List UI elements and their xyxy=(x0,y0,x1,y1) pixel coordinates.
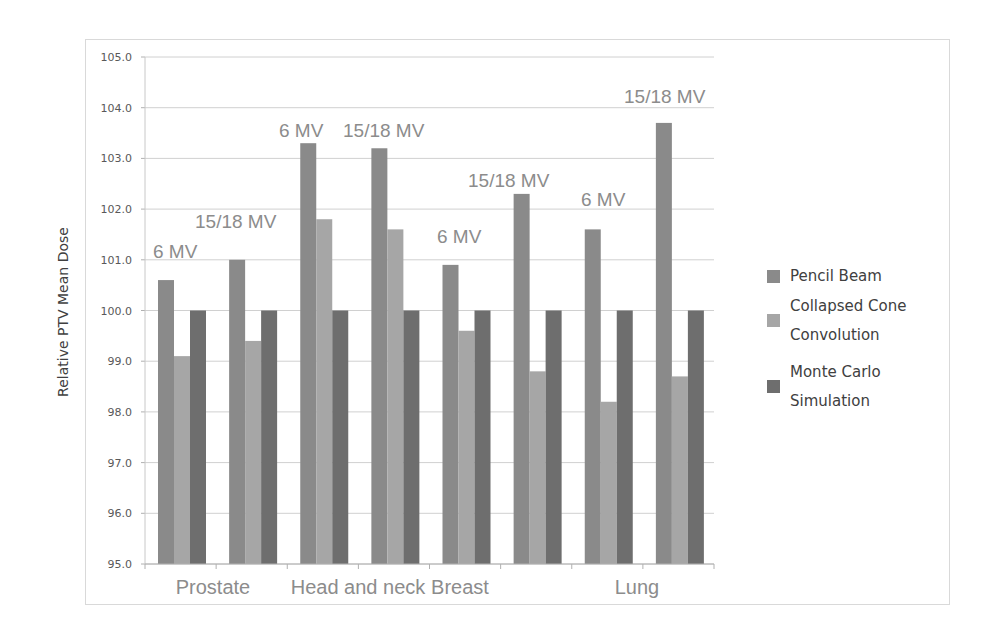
bar-collapsed-cone-convolution xyxy=(672,376,688,564)
bar-monte-carlo-simulation xyxy=(261,311,277,565)
y-tick-label: 96.0 xyxy=(108,507,133,520)
y-axis-label: Relative PTV Mean Dose xyxy=(55,227,71,397)
bar-monte-carlo-simulation xyxy=(332,311,348,565)
bar-collapsed-cone-convolution xyxy=(245,341,261,564)
legend-label: Pencil Beam xyxy=(790,267,882,285)
energy-annotation: 15/18 MV xyxy=(468,170,550,191)
energy-annotation: 6 MV xyxy=(437,226,482,247)
energy-annotation: 6 MV xyxy=(581,189,626,210)
energy-annotation: 15/18 MV xyxy=(195,211,277,232)
category-labels: ProstateHead and neckBreastLung xyxy=(176,576,659,598)
energy-annotation: 15/18 MV xyxy=(624,86,706,107)
y-tick-label: 103.0 xyxy=(101,152,133,165)
bar-collapsed-cone-convolution xyxy=(601,402,617,564)
bar-pencil-beam xyxy=(514,194,530,564)
y-tick-label: 97.0 xyxy=(108,457,133,470)
legend-swatch xyxy=(767,270,780,283)
bar-monte-carlo-simulation xyxy=(617,311,633,565)
x-axis xyxy=(145,564,714,569)
bar-pencil-beam xyxy=(371,148,387,564)
y-tick-label: 98.0 xyxy=(108,406,133,419)
bar-monte-carlo-simulation xyxy=(688,311,704,565)
energy-annotation: 6 MV xyxy=(153,241,198,262)
bar-pencil-beam xyxy=(300,143,316,564)
bar-pencil-beam xyxy=(229,260,245,564)
legend: Pencil BeamCollapsed ConeConvolutionMont… xyxy=(767,267,906,410)
category-label: Breast xyxy=(431,576,489,598)
legend-swatch xyxy=(767,314,780,327)
legend-label: Convolution xyxy=(790,326,880,344)
legend-label: Simulation xyxy=(790,392,870,410)
y-tick-label: 102.0 xyxy=(101,203,133,216)
y-tick-label: 104.0 xyxy=(101,102,133,115)
y-tick-label: 95.0 xyxy=(108,558,133,571)
category-label: Prostate xyxy=(176,576,250,598)
legend-label: Monte Carlo xyxy=(790,363,881,381)
legend-label: Collapsed Cone xyxy=(790,297,906,315)
bar-collapsed-cone-convolution xyxy=(387,229,403,564)
bar-collapsed-cone-convolution xyxy=(174,356,190,564)
bar-monte-carlo-simulation xyxy=(475,311,491,565)
category-label: Head and neck xyxy=(291,576,427,598)
bar-collapsed-cone-convolution xyxy=(459,331,475,564)
legend-swatch xyxy=(767,380,780,393)
bar-pencil-beam xyxy=(656,123,672,564)
bar-monte-carlo-simulation xyxy=(546,311,562,565)
energy-annotation: 15/18 MV xyxy=(343,120,425,141)
y-tick-label: 105.0 xyxy=(101,51,133,64)
bar-pencil-beam xyxy=(158,280,174,564)
category-label: Lung xyxy=(615,576,660,598)
bar-chart: 95.096.097.098.099.0100.0101.0102.0103.0… xyxy=(0,0,997,640)
y-tick-label: 99.0 xyxy=(108,355,133,368)
y-tick-label: 101.0 xyxy=(101,254,133,267)
bar-monte-carlo-simulation xyxy=(190,311,206,565)
y-tick-label: 100.0 xyxy=(101,305,133,318)
energy-annotations: 6 MV15/18 MV6 MV15/18 MV6 MV15/18 MV6 MV… xyxy=(153,86,706,262)
bar-pencil-beam xyxy=(443,265,459,564)
y-axis-ticks: 95.096.097.098.099.0100.0101.0102.0103.0… xyxy=(101,51,133,571)
energy-annotation: 6 MV xyxy=(279,120,324,141)
bar-collapsed-cone-convolution xyxy=(316,219,332,564)
bar-pencil-beam xyxy=(585,229,601,564)
bar-monte-carlo-simulation xyxy=(403,311,419,565)
bar-collapsed-cone-convolution xyxy=(530,371,546,564)
